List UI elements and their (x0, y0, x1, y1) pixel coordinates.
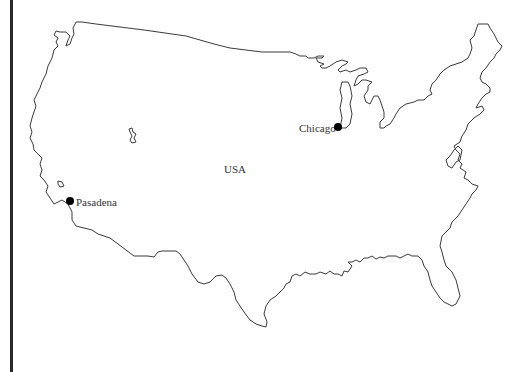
usa-outline-map (0, 0, 519, 372)
city-marker-chicago (334, 123, 342, 131)
lake-michigan-outline (340, 82, 352, 128)
salton-island-outline (58, 181, 64, 187)
city-marker-pasadena (66, 197, 74, 205)
country-label-usa: USA (224, 164, 246, 175)
great-salt-lake-outline (129, 128, 136, 143)
city-label-pasadena: Pasadena (76, 197, 117, 208)
chesapeake-outline (446, 146, 462, 168)
city-label-chicago: Chicago (299, 123, 336, 134)
usa-outline (30, 22, 502, 327)
